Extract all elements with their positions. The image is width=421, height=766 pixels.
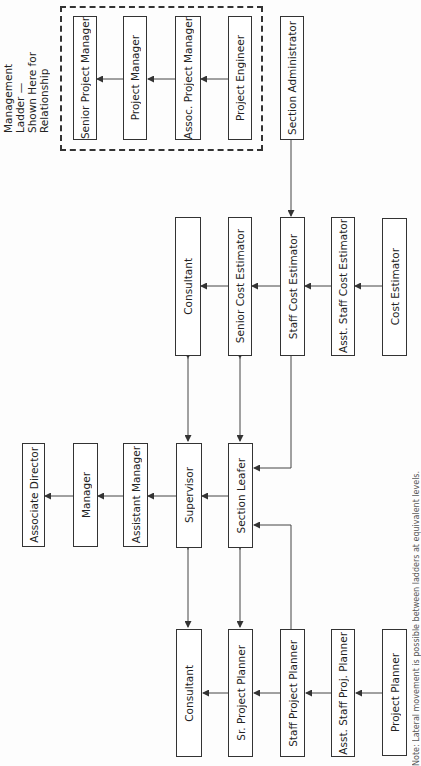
box-label: Senior Cost Estimator [234,229,246,343]
box-label: Project Manager [129,35,141,120]
box-section-leader: Section Leafer [228,443,253,548]
box-associate-director: Associate Director [22,443,45,547]
box-label: Section Leafer [235,458,247,533]
box-label: Staff Cost Estimator [287,234,299,339]
box-label: Cost Estimator [389,248,401,325]
box-label: Project Engineer [234,35,246,121]
box-label: Project Planner [389,653,401,732]
box-assistant-manager: Assistant Manager [123,443,148,547]
box-asst-staff-cost-estimator: Asst. Staff Cost Estimator [331,217,355,356]
box-staff-cost-estimator: Staff Cost Estimator [280,217,305,356]
box-section-administrator: Section Administrator [280,16,304,140]
box-label: Assistant Manager [130,446,142,543]
box-label: Associate Director [28,447,40,543]
management-ladder-label: Management Ladder — Shown Here for Relat… [2,28,50,133]
box-manager: Manager [73,443,98,547]
label-line-2: Shown Here for [26,28,38,133]
box-label: Consultant [182,258,194,315]
box-senior-cost-estimator: Senior Cost Estimator [228,217,252,356]
box-project-planner: Project Planner [382,629,407,756]
box-assoc-project-manager: Assoc. Project Manager [175,16,201,140]
box-label: Sr. Project Planner [235,645,247,741]
box-sr-project-planner: Sr. Project Planner [228,629,253,757]
box-label: Manager [80,472,92,518]
box-label: Supervisor [183,467,195,523]
box-senior-project-manager: Senior Project Manager [73,16,97,140]
footnote: Note: Lateral movement is possible betwe… [412,430,421,766]
box-consultant-planner: Consultant [176,629,202,757]
box-label: Consultant [183,665,195,722]
box-label: Asst. Staff Cost Estimator [337,219,349,353]
box-consultant-cost: Consultant [175,217,201,356]
box-label: Staff Project Planner [287,640,299,747]
box-label: Assoc. Project Manager [182,17,194,139]
box-asst-staff-proj-planner: Asst. Staff Proj. Planner [331,629,355,757]
box-staff-project-planner: Staff Project Planner [280,629,305,757]
box-cost-estimator: Cost Estimator [382,218,407,356]
box-label: Senior Project Manager [79,17,91,139]
box-project-manager: Project Manager [123,16,147,140]
box-label: Asst. Staff Proj. Planner [337,632,349,755]
label-line-3: Relationship [38,28,50,133]
box-label: Section Administrator [286,21,298,135]
label-line-1: Management Ladder — [2,28,26,133]
box-project-engineer: Project Engineer [228,16,252,140]
box-supervisor: Supervisor [176,443,202,548]
